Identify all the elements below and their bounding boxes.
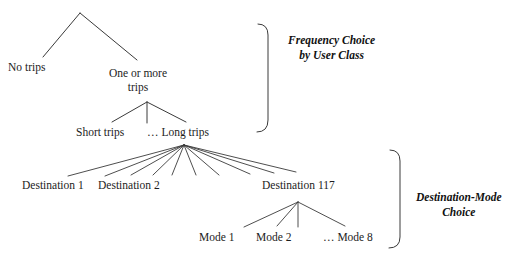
node-no-trips: No trips <box>8 61 45 75</box>
edge-destination-117-to-mode-1 <box>244 202 298 227</box>
node-one-or-more-trips-line2: trips <box>128 81 148 93</box>
label-frequency-choice-line2: by User Class <box>299 49 364 61</box>
edge-long-trips-to-destination-1 <box>68 145 184 176</box>
label-destination-mode-choice-line2: Choice <box>442 206 475 218</box>
node-mode-1: Mode 1 <box>199 231 234 245</box>
label-frequency-choice: Frequency Choice by User Class <box>288 33 375 63</box>
node-long-trips: … Long trips <box>147 126 209 140</box>
node-destination-1: Destination 1 <box>22 179 84 193</box>
node-one-or-more-trips-line1: One or more <box>109 67 167 79</box>
node-short-trips: Short trips <box>76 126 124 140</box>
edge-long-trips-fan-9 <box>184 145 274 173</box>
node-one-or-more-trips: One or more trips <box>104 66 172 94</box>
edge-destination-117-to-mode-8 <box>298 202 345 226</box>
edge-root-to-one-or-more <box>80 13 137 60</box>
edge-long-trips-fan-5 <box>172 145 184 175</box>
edge-one-or-more-to-long-trips <box>147 102 186 122</box>
diagram-canvas: No trips One or more trips Short trips …… <box>0 0 516 259</box>
edge-long-trips-fan-2 <box>105 145 184 176</box>
edge-long-trips-to-destination-117 <box>184 145 296 172</box>
node-mode-8: … Mode 8 <box>323 231 373 245</box>
label-destination-mode-choice: Destination-Mode Choice <box>416 190 502 220</box>
node-destination-117: Destination 117 <box>262 179 335 193</box>
frequency-choice-brace <box>257 24 268 132</box>
label-frequency-choice-line1: Frequency Choice <box>288 34 375 46</box>
edge-one-or-more-to-short-trips <box>112 102 147 122</box>
destination-fan-edges <box>68 145 296 176</box>
destination-mode-choice-brace <box>389 150 400 248</box>
mode-fan-edges <box>244 202 345 227</box>
edge-destination-117-to-mode-2 <box>277 202 298 226</box>
label-destination-mode-choice-line1: Destination-Mode <box>416 191 502 203</box>
node-destination-2: Destination 2 <box>98 179 160 193</box>
node-mode-2: Mode 2 <box>256 231 291 245</box>
edge-root-to-no-trips <box>43 13 80 57</box>
